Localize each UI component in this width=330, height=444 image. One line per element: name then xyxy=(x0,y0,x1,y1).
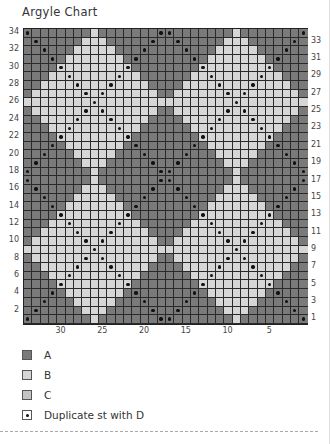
chart-cell xyxy=(274,150,282,159)
chart-cell xyxy=(233,254,241,263)
row-label-right: 13 xyxy=(311,209,325,218)
chart-cell xyxy=(57,55,65,64)
chart-cell xyxy=(132,298,140,307)
chart-cell xyxy=(107,185,115,194)
chart-cell xyxy=(299,176,307,185)
chart-cell xyxy=(241,81,249,90)
chart-cell xyxy=(99,246,107,255)
chart-cell xyxy=(141,142,149,151)
chart-cell xyxy=(166,81,174,90)
chart-cell xyxy=(32,176,40,185)
chart-cell xyxy=(24,29,32,38)
chart-cell xyxy=(132,81,140,90)
chart-cell xyxy=(174,133,182,142)
chart-cell xyxy=(149,124,157,133)
chart-cell xyxy=(283,64,291,73)
chart-cell xyxy=(24,150,32,159)
chart-cell xyxy=(149,133,157,142)
chart-cell xyxy=(74,202,82,211)
chart-cell xyxy=(299,81,307,90)
chart-cell xyxy=(41,124,49,133)
chart-cell xyxy=(199,98,207,107)
chart-cell xyxy=(183,298,191,307)
chart-cell xyxy=(258,254,266,263)
chart-cell xyxy=(233,237,241,246)
row-label-left: 2 xyxy=(5,305,19,314)
chart-cell xyxy=(149,228,157,237)
chart-cell xyxy=(283,298,291,307)
chart-cell xyxy=(141,246,149,255)
chart-cell xyxy=(266,107,274,116)
chart-cell xyxy=(174,289,182,298)
chart-cell xyxy=(191,124,199,133)
chart-cell xyxy=(266,307,274,316)
chart-cell xyxy=(266,38,274,47)
chart-cell xyxy=(91,133,99,142)
chart-cell xyxy=(199,307,207,316)
chart-cell xyxy=(66,307,74,316)
chart-cell xyxy=(191,150,199,159)
chart-cell xyxy=(274,124,282,133)
chart-cell xyxy=(132,289,140,298)
chart-cell xyxy=(199,289,207,298)
chart-cell xyxy=(24,98,32,107)
chart-cell xyxy=(32,64,40,73)
chart-cell xyxy=(283,272,291,281)
chart-cell xyxy=(32,307,40,316)
chart-cell xyxy=(233,289,241,298)
chart-cell xyxy=(82,263,90,272)
chart-cell xyxy=(149,55,157,64)
row-label-right: 3 xyxy=(311,296,325,305)
chart-cell xyxy=(132,150,140,159)
chart-cell xyxy=(208,107,216,116)
chart-cell xyxy=(24,280,32,289)
chart-cell xyxy=(199,55,207,64)
chart-cell xyxy=(49,116,57,125)
chart-cell xyxy=(166,55,174,64)
chart-cell xyxy=(66,116,74,125)
chart-cell xyxy=(141,159,149,168)
chart-cell xyxy=(99,64,107,73)
chart-cell xyxy=(74,168,82,177)
chart-cell xyxy=(199,72,207,81)
chart-cell xyxy=(283,107,291,116)
chart-cell xyxy=(249,315,257,324)
chart-cell xyxy=(266,142,274,151)
chart-cell xyxy=(199,202,207,211)
chart-cell xyxy=(141,38,149,47)
chart-cell xyxy=(107,46,115,55)
chart-cell xyxy=(166,194,174,203)
chart-cell xyxy=(208,116,216,125)
chart-cell xyxy=(241,159,249,168)
chart-cell xyxy=(216,81,224,90)
chart-cell xyxy=(241,237,249,246)
chart-cell xyxy=(66,29,74,38)
chart-cell xyxy=(249,55,257,64)
chart-cell xyxy=(199,90,207,99)
chart-cell xyxy=(266,98,274,107)
chart-cell xyxy=(82,116,90,125)
chart-cell xyxy=(249,124,257,133)
chart-cell xyxy=(158,211,166,220)
chart-cell xyxy=(258,185,266,194)
chart-cell xyxy=(266,202,274,211)
chart-cell xyxy=(224,237,232,246)
chart-cell xyxy=(291,38,299,47)
chart-cell xyxy=(91,176,99,185)
chart-cell xyxy=(191,176,199,185)
chart-cell xyxy=(41,81,49,90)
chart-cell xyxy=(91,29,99,38)
chart-cell xyxy=(274,280,282,289)
chart-cell xyxy=(233,228,241,237)
chart-cell xyxy=(274,176,282,185)
chart-cell xyxy=(132,159,140,168)
chart-cell xyxy=(291,315,299,324)
chart-cell xyxy=(41,315,49,324)
chart-cell xyxy=(82,185,90,194)
chart-cell xyxy=(274,81,282,90)
chart-cell xyxy=(32,194,40,203)
chart-cell xyxy=(258,272,266,281)
chart-cell xyxy=(291,116,299,125)
chart-cell xyxy=(41,211,49,220)
chart-cell xyxy=(183,211,191,220)
